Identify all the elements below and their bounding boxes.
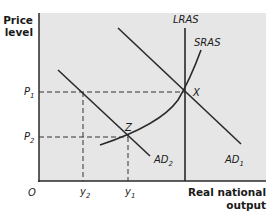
- origin-label: O: [28, 187, 36, 198]
- x-axis-title: Real national: [188, 186, 266, 198]
- p2-label: P2: [24, 131, 35, 145]
- x-axis-title-2: output: [226, 199, 266, 211]
- point-x-label: X: [192, 87, 201, 98]
- y2-label: y2: [79, 186, 91, 200]
- ad-as-diagram: Price level Real national output O LRAS …: [0, 0, 277, 217]
- point-z-label: Z: [124, 122, 133, 133]
- y1-label: y1: [124, 186, 135, 200]
- lras-label: LRAS: [173, 14, 199, 25]
- y-axis-title: Price: [3, 14, 33, 26]
- sras-label: SRAS: [194, 37, 221, 48]
- p1-label: P1: [24, 86, 35, 100]
- y-axis-title-2: level: [5, 26, 33, 38]
